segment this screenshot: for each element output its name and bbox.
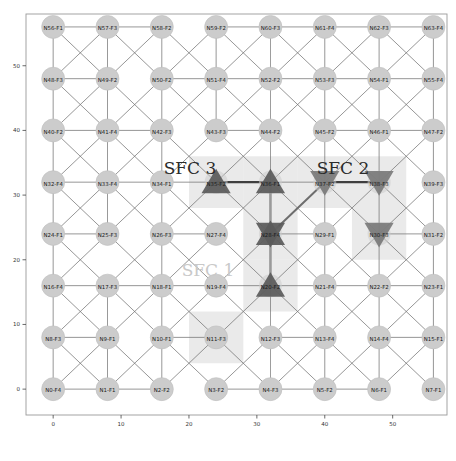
network-plot-svg: N0-F4N1-F1N2-F2N3-F2N4-F3N5-F2N6-F1N7-F1… [0, 0, 456, 461]
graph-node-label: N61-F4 [315, 25, 335, 31]
graph-node-label: N60-F3 [261, 25, 280, 31]
graph-node-label: N55-F4 [424, 77, 444, 83]
graph-node-label: N54-F1 [369, 77, 388, 83]
graph-node-label: N15-F1 [424, 336, 443, 342]
y-tick-label: 40 [13, 127, 20, 133]
y-tick-label: 20 [13, 257, 20, 263]
figure-canvas: N0-F4N1-F1N2-F2N3-F2N4-F3N5-F2N6-F1N7-F1… [0, 0, 456, 461]
y-tick-label: 0 [17, 386, 21, 392]
graph-node-label: N31-F2 [424, 232, 443, 238]
y-tick-label: 10 [13, 321, 20, 327]
graph-node-label: N22-F2 [369, 284, 388, 290]
graph-node-label: N56-F1 [43, 25, 62, 31]
graph-node-label: N3-F2 [208, 387, 224, 393]
graph-node-label: N63-F4 [424, 25, 444, 31]
graph-node-label: N34-F1 [152, 181, 171, 187]
graph-node-label: N59-F2 [206, 25, 225, 31]
graph-node-label: N1-F1 [100, 387, 116, 393]
graph-node-label: N0-F4 [45, 387, 62, 393]
x-tick-label: 10 [118, 421, 125, 427]
graph-node-label: N50-F2 [152, 77, 171, 83]
graph-node-label: N26-F3 [152, 232, 171, 238]
graph-node-label: N47-F2 [424, 129, 443, 135]
x-tick-label: 0 [51, 421, 55, 427]
graph-node-label: N17-F3 [98, 284, 117, 290]
graph-node-label: N25-F3 [98, 232, 117, 238]
graph-node-label: N24-F1 [43, 232, 62, 238]
sfc-annotation-label: SFC 3 [164, 158, 217, 178]
graph-node-label: N42-F3 [152, 129, 171, 135]
graph-node-label: N62-F3 [369, 25, 388, 31]
graph-node-label: N40-F2 [43, 129, 62, 135]
x-tick-label: 30 [253, 421, 260, 427]
graph-node-label: N8-F3 [45, 336, 61, 342]
graph-node-label: N18-F1 [152, 284, 171, 290]
y-tick-label: 50 [13, 63, 20, 69]
x-tick-label: 40 [321, 421, 328, 427]
graph-node-label: N36-F1 [261, 181, 280, 187]
graph-node-label: N51-F4 [206, 77, 226, 83]
graph-node-label: N43-F3 [206, 129, 225, 135]
graph-node-label: N20-F2 [261, 284, 280, 290]
graph-node-label: N12-F3 [261, 336, 280, 342]
graph-node-label: N4-F3 [262, 387, 278, 393]
x-tick-label: 20 [185, 421, 192, 427]
graph-node-label: N58-F2 [152, 25, 171, 31]
graph-node-label: N48-F3 [43, 77, 62, 83]
graph-node-label: N9-F1 [100, 336, 116, 342]
graph-node-label: N52-F2 [261, 77, 280, 83]
graph-node-label: N41-F4 [98, 129, 118, 135]
graph-node-label: N57-F3 [98, 25, 117, 31]
graph-node-label: N6-F1 [371, 387, 387, 393]
graph-node-label: N27-F4 [206, 232, 226, 238]
graph-node-label: N38-F3 [369, 181, 388, 187]
graph-node-label: N2-F2 [154, 387, 170, 393]
graph-node-label: N11-F3 [206, 336, 225, 342]
graph-node-label: N10-F1 [152, 336, 171, 342]
y-tick-label: 30 [13, 192, 20, 198]
graph-node-label: N7-F1 [425, 387, 441, 393]
graph-node-label: N21-F4 [315, 284, 335, 290]
graph-node-label: N5-F2 [317, 387, 333, 393]
graph-node-label: N35-F2 [206, 181, 225, 187]
graph-node-label: N53-F3 [315, 77, 334, 83]
graph-node-label: N14-F4 [369, 336, 389, 342]
graph-node-label: N23-F1 [424, 284, 443, 290]
graph-node-label: N46-F1 [369, 129, 388, 135]
graph-node-label: N16-F4 [43, 284, 63, 290]
graph-node-label: N44-F2 [261, 129, 280, 135]
graph-node-label: N19-F4 [206, 284, 226, 290]
graph-node-label: N29-F1 [315, 232, 334, 238]
graph-node-label: N45-F2 [315, 129, 334, 135]
graph-node-label: N28-F4 [261, 232, 281, 238]
x-tick-label: 50 [389, 421, 396, 427]
sfc-annotation-label: SFC 2 [317, 158, 370, 178]
graph-node-label: N39-F3 [424, 181, 443, 187]
graph-node-label: N13-F4 [315, 336, 335, 342]
graph-node-label: N33-F4 [98, 181, 118, 187]
graph-node-label: N30-F3 [369, 232, 388, 238]
graph-node-label: N32-F4 [43, 181, 63, 187]
graph-node-label: N49-F2 [98, 77, 117, 83]
sfc-annotation-label: SFC 1 [182, 260, 235, 280]
graph-node-label: N37-F2 [315, 181, 334, 187]
